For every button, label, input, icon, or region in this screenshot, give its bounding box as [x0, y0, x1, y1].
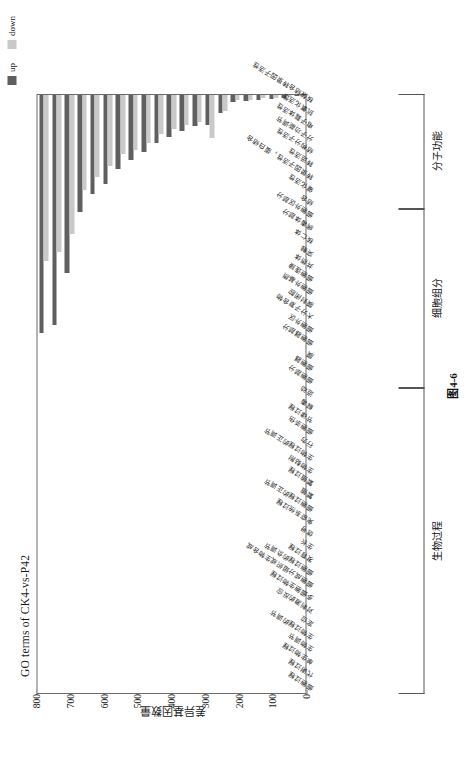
- legend-swatch-down: [7, 40, 16, 49]
- legend-item-up: up: [6, 63, 16, 85]
- bar-up: [243, 94, 248, 101]
- bar-up: [230, 94, 235, 102]
- chart-title: GO terms of CK4-vs-P42: [18, 555, 30, 677]
- bar-down: [184, 94, 189, 125]
- bar-down: [69, 94, 74, 234]
- bar-down: [56, 94, 61, 252]
- bar-down: [133, 94, 138, 150]
- bar-up: [39, 94, 44, 333]
- bar-up: [141, 94, 146, 152]
- category-axis: 细胞过程代谢过程单生物过程生物调节生物过程的调节定位对刺激的反应多细胞生物过程细…: [307, 94, 399, 694]
- bar-down: [158, 94, 163, 134]
- bar-down: [171, 94, 176, 129]
- bar-up: [179, 94, 184, 131]
- bar-down: [107, 94, 112, 166]
- bar-down: [260, 94, 265, 98]
- bar-down: [222, 94, 227, 111]
- bar-up: [218, 94, 223, 113]
- plot-area: [36, 94, 306, 694]
- bar-down: [120, 94, 125, 154]
- bar-down: [43, 94, 48, 261]
- bar-down: [146, 94, 151, 143]
- y-tick-label: 400: [166, 694, 176, 724]
- y-tick-label: 200: [234, 694, 244, 724]
- bar-up: [166, 94, 171, 137]
- legend-item-down: down: [6, 16, 16, 49]
- y-tick-label: 100: [267, 694, 277, 724]
- bar-down: [209, 94, 214, 138]
- group-bracket: [398, 209, 424, 388]
- bar-down: [248, 94, 253, 100]
- bar-up: [269, 94, 274, 99]
- group-bracket: [398, 388, 424, 694]
- bar-down: [82, 94, 87, 190]
- rotated-figure-wrapper: GO terms of CK4-vs-P42 up down 差异基因数量 01…: [0, 0, 467, 772]
- group-label: 分子功能: [428, 131, 443, 171]
- y-tick-label: 500: [132, 694, 142, 724]
- figure-caption: 图4-6: [443, 0, 459, 772]
- legend-label-down: down: [6, 16, 16, 36]
- group-label: 生物过程: [428, 521, 443, 561]
- y-tick-label: 800: [31, 694, 41, 724]
- y-tick-label: 300: [200, 694, 210, 724]
- chart-legend: up down: [6, 16, 16, 85]
- bar-up: [154, 94, 159, 143]
- bar-down: [197, 94, 202, 122]
- bar-up: [192, 94, 197, 126]
- bar-up: [115, 94, 120, 169]
- y-tick-label: 600: [99, 694, 109, 724]
- bar-up: [256, 94, 261, 100]
- y-axis: 差异基因数量 0100200300400500600700800: [36, 694, 306, 726]
- y-tick-label: 700: [65, 694, 75, 724]
- bar-down: [273, 94, 278, 98]
- bar-up: [64, 94, 69, 273]
- bar-up: [90, 94, 95, 194]
- bar-up: [77, 94, 82, 212]
- bar-down: [235, 94, 240, 100]
- go-terms-figure: GO terms of CK4-vs-P42 up down 差异基因数量 01…: [0, 0, 467, 772]
- y-tick-label: 0: [301, 694, 311, 724]
- bar-up: [128, 94, 133, 160]
- group-bracket: [398, 94, 424, 209]
- bar-up: [52, 94, 57, 325]
- legend-swatch-up: [7, 76, 16, 85]
- legend-label-up: up: [6, 63, 16, 72]
- bar-down: [94, 94, 99, 177]
- bar-up: [103, 94, 108, 184]
- group-label: 细胞组分: [428, 278, 443, 318]
- bar-up: [205, 94, 210, 125]
